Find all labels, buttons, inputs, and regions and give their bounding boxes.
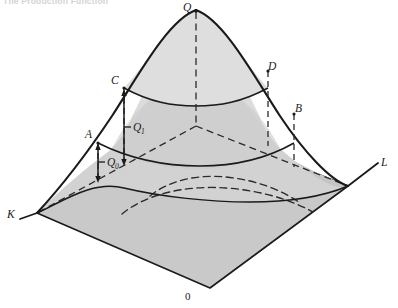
label-point-D: D: [267, 60, 277, 72]
figure-caption-cropped: The Production Function: [3, 0, 108, 4]
production-function-figure: The Production Function: [0, 0, 398, 308]
axis-l-extension: [348, 163, 378, 186]
production-surface-svg: Q C D A B K L 0 Q 1 Q 0: [0, 0, 398, 308]
label-origin-0: 0: [185, 290, 191, 302]
point-marker-c: [122, 86, 125, 89]
label-measure-Q0-sub: 0: [115, 162, 119, 171]
label-point-B: B: [295, 102, 302, 114]
label-point-C: C: [111, 74, 119, 86]
label-point-A: A: [84, 128, 93, 140]
axis-k-extension: [20, 213, 37, 219]
point-marker-apex: [194, 9, 197, 12]
label-apex-Q: Q: [183, 1, 192, 13]
point-marker-a: [96, 141, 99, 144]
label-axis-L: L: [380, 156, 387, 168]
label-axis-K: K: [6, 208, 16, 220]
label-measure-Q1-sub: 1: [141, 127, 145, 136]
